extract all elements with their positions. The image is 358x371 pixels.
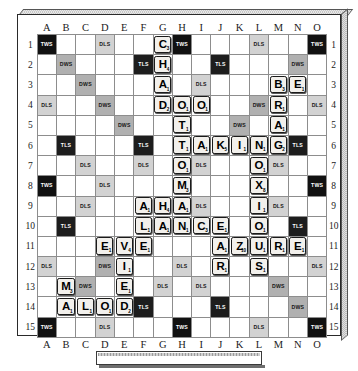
board-square-m7[interactable]: DLS xyxy=(269,156,288,176)
board-square-l8[interactable]: X8 xyxy=(249,176,268,196)
board-square-l12[interactable]: S1 xyxy=(249,257,268,277)
board-square-d8[interactable]: DLS xyxy=(95,176,114,196)
board-square-e8[interactable] xyxy=(115,176,134,196)
board-square-a7[interactable] xyxy=(37,156,56,176)
tile-l11[interactable]: U1 xyxy=(250,237,267,254)
board-square-f9[interactable]: A1 xyxy=(134,196,153,216)
board-square-a8[interactable]: TWS xyxy=(37,176,56,196)
board-square-k4[interactable] xyxy=(230,95,249,115)
board-square-o13[interactable] xyxy=(307,277,326,297)
tile-b13[interactable]: M3 xyxy=(57,278,74,295)
board-square-e15[interactable] xyxy=(115,317,134,337)
tile-d14[interactable]: O1 xyxy=(96,298,113,315)
board-square-b9[interactable] xyxy=(56,196,75,216)
tile-i6[interactable]: A1 xyxy=(193,136,210,153)
board-square-h2[interactable] xyxy=(172,55,191,75)
board-square-d12[interactable]: DWS xyxy=(95,257,114,277)
board-square-l11[interactable]: U1 xyxy=(249,236,268,256)
tile-g9[interactable]: H4 xyxy=(154,197,171,214)
board-square-l6[interactable]: N1 xyxy=(249,135,268,155)
board-square-g1[interactable]: C3 xyxy=(153,35,172,55)
board-square-i13[interactable]: DLS xyxy=(192,277,211,297)
board-square-k1[interactable] xyxy=(230,35,249,55)
board-square-n13[interactable] xyxy=(288,277,307,297)
board-square-o11[interactable] xyxy=(307,236,326,256)
board-square-d4[interactable]: DWS xyxy=(95,95,114,115)
board-square-i12[interactable] xyxy=(192,257,211,277)
board-square-j15[interactable] xyxy=(211,317,230,337)
tile-b14[interactable]: A1 xyxy=(57,298,74,315)
board-square-g2[interactable]: H4 xyxy=(153,55,172,75)
board-square-i15[interactable] xyxy=(192,317,211,337)
board-square-l1[interactable]: DLS xyxy=(249,35,268,55)
board-square-e6[interactable] xyxy=(115,135,134,155)
board-square-h3[interactable] xyxy=(172,75,191,95)
board-square-o8[interactable]: TWS xyxy=(307,176,326,196)
board-square-k10[interactable] xyxy=(230,216,249,236)
board-square-j13[interactable] xyxy=(211,277,230,297)
tile-f11[interactable]: E1 xyxy=(135,237,152,254)
board-square-n2[interactable]: DWS xyxy=(288,55,307,75)
board-square-c9[interactable]: DLS xyxy=(76,196,95,216)
board-square-f4[interactable] xyxy=(134,95,153,115)
tile-l8[interactable]: X8 xyxy=(250,177,267,194)
board-square-a2[interactable] xyxy=(37,55,56,75)
board-square-c8[interactable] xyxy=(76,176,95,196)
board-square-b14[interactable]: A1 xyxy=(56,297,75,317)
board-square-h9[interactable]: A1 xyxy=(172,196,191,216)
board-square-l9[interactable]: I1 xyxy=(249,196,268,216)
board-square-g11[interactable] xyxy=(153,236,172,256)
board-square-j2[interactable]: TLS xyxy=(211,55,230,75)
tile-h5[interactable]: T1 xyxy=(173,116,190,133)
tile-g1[interactable]: C3 xyxy=(154,36,171,53)
board-square-b6[interactable]: TLS xyxy=(56,135,75,155)
board-square-m2[interactable] xyxy=(269,55,288,75)
board-square-m14[interactable] xyxy=(269,297,288,317)
board-square-b15[interactable] xyxy=(56,317,75,337)
board-square-k6[interactable]: I1 xyxy=(230,135,249,155)
board-square-m8[interactable] xyxy=(269,176,288,196)
board-square-l10[interactable]: O1 xyxy=(249,216,268,236)
board-square-e5[interactable]: DWS xyxy=(115,115,134,135)
board-square-n5[interactable] xyxy=(288,115,307,135)
board-square-o3[interactable] xyxy=(307,75,326,95)
tile-h8[interactable]: M3 xyxy=(173,177,190,194)
board-square-k7[interactable] xyxy=(230,156,249,176)
board-square-a13[interactable] xyxy=(37,277,56,297)
board-square-h6[interactable]: T1 xyxy=(172,135,191,155)
board-square-h5[interactable]: T1 xyxy=(172,115,191,135)
board-square-d6[interactable] xyxy=(95,135,114,155)
board-square-d13[interactable] xyxy=(95,277,114,297)
board-square-c14[interactable]: L1 xyxy=(76,297,95,317)
board-square-h15[interactable]: TWS xyxy=(172,317,191,337)
board-square-a3[interactable] xyxy=(37,75,56,95)
tile-e11[interactable]: V4 xyxy=(116,237,133,254)
board-square-f15[interactable] xyxy=(134,317,153,337)
tile-g10[interactable]: A1 xyxy=(154,217,171,234)
board-square-g12[interactable] xyxy=(153,257,172,277)
tile-m11[interactable]: R1 xyxy=(270,237,287,254)
board-square-h7[interactable]: O1 xyxy=(172,156,191,176)
board-square-f6[interactable]: TLS xyxy=(134,135,153,155)
tile-h4[interactable]: O1 xyxy=(173,96,190,113)
board-square-d3[interactable] xyxy=(95,75,114,95)
board-square-k11[interactable]: Z10 xyxy=(230,236,249,256)
board-square-d2[interactable] xyxy=(95,55,114,75)
board-square-i11[interactable] xyxy=(192,236,211,256)
board-square-l13[interactable] xyxy=(249,277,268,297)
tile-f9[interactable]: A1 xyxy=(135,197,152,214)
board-square-m1[interactable] xyxy=(269,35,288,55)
board-square-d7[interactable] xyxy=(95,156,114,176)
tile-d11[interactable]: E1 xyxy=(96,237,113,254)
board-square-m9[interactable]: DLS xyxy=(269,196,288,216)
tile-m6[interactable]: G2 xyxy=(270,136,287,153)
board-square-i8[interactable] xyxy=(192,176,211,196)
tile-e13[interactable]: E1 xyxy=(116,278,133,295)
board-square-i5[interactable] xyxy=(192,115,211,135)
tile-m4[interactable]: R1 xyxy=(270,96,287,113)
board-square-a4[interactable]: DLS xyxy=(37,95,56,115)
tile-g4[interactable]: D2 xyxy=(154,96,171,113)
board-square-m5[interactable]: A1 xyxy=(269,115,288,135)
board-square-f5[interactable] xyxy=(134,115,153,135)
board-square-n7[interactable] xyxy=(288,156,307,176)
